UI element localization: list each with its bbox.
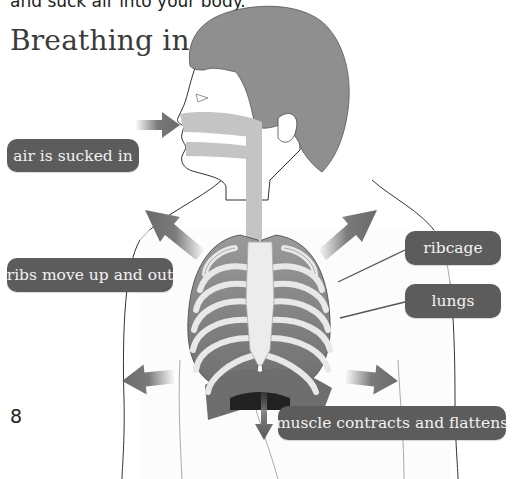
label-ribs-text: ribs move up and out bbox=[7, 266, 174, 284]
label-lungs: lungs bbox=[405, 284, 501, 318]
air-in-arrow-icon bbox=[135, 112, 180, 138]
label-ribcage-text: ribcage bbox=[423, 239, 482, 257]
label-lungs-text: lungs bbox=[432, 292, 475, 310]
label-air-sucked-in: air is sucked in bbox=[7, 139, 139, 172]
label-ribs-move: ribs move up and out bbox=[7, 258, 173, 292]
page-number: 8 bbox=[10, 405, 22, 427]
label-air-text: air is sucked in bbox=[13, 147, 132, 165]
label-ribcage: ribcage bbox=[405, 231, 501, 265]
label-muscle-text: muscle contracts and flattens bbox=[276, 414, 508, 432]
label-muscle: muscle contracts and flattens bbox=[278, 406, 506, 440]
sternum bbox=[246, 242, 274, 365]
